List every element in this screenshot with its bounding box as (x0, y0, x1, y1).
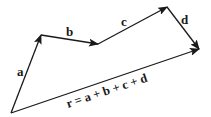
vector-r-resultant: r = a + b + c + d (11, 49, 199, 113)
vector-c: c (98, 7, 167, 44)
vector-b: b (41, 24, 98, 44)
vector-a-arrow (11, 35, 41, 113)
vector-a-label: a (17, 64, 24, 79)
vector-c-label: c (121, 14, 127, 29)
vector-b-label: b (66, 24, 73, 39)
vector-d-label: d (181, 12, 189, 27)
vector-r-arrow (11, 49, 199, 113)
vector-c-arrow (98, 7, 167, 44)
vector-addition-diagram: a b c d r = a + b + c + d (0, 0, 211, 117)
vector-d: d (167, 7, 199, 49)
vector-a: a (11, 35, 41, 113)
